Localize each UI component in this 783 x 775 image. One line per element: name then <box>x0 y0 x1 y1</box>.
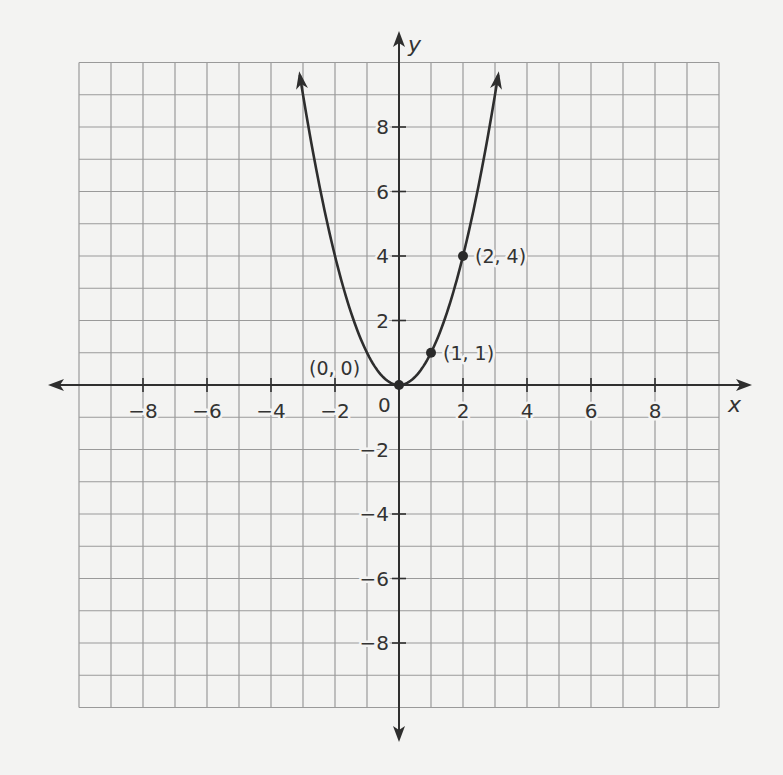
data-point-label: (2, 4) <box>475 245 526 267</box>
y-tick-label: −4 <box>360 502 389 526</box>
x-tick-label: −4 <box>256 399 285 423</box>
data-point-marker <box>426 348 436 358</box>
origin-label: 0 <box>378 393 391 417</box>
y-tick-label: −8 <box>360 631 389 655</box>
x-tick-label: 6 <box>585 399 598 423</box>
data-point-label: (1, 1) <box>443 342 494 364</box>
x-tick-label: 8 <box>649 399 662 423</box>
y-tick-label: 6 <box>376 180 389 204</box>
y-axis-title: y <box>407 32 422 57</box>
x-tick-label: 4 <box>521 399 534 423</box>
y-tick-label: 8 <box>376 115 389 139</box>
x-tick-label: −6 <box>192 399 221 423</box>
x-tick-label: −2 <box>320 399 349 423</box>
y-tick-label: −2 <box>360 438 389 462</box>
coordinate-plane: −8−6−4−224688642−2−4−6−8 (0, 0)(1, 1)(2,… <box>0 0 783 775</box>
y-tick-label: −6 <box>360 567 389 591</box>
x-tick-label: 2 <box>457 399 470 423</box>
y-tick-label: 2 <box>376 309 389 333</box>
x-axis-title: x <box>727 392 742 417</box>
point-labels: (0, 0)(1, 1)(2, 4) <box>309 245 526 379</box>
data-point-label: (0, 0) <box>309 357 360 379</box>
data-point-marker <box>458 251 468 261</box>
x-tick-label: −8 <box>128 399 157 423</box>
data-point-marker <box>394 380 404 390</box>
y-tick-label: 4 <box>376 244 389 268</box>
